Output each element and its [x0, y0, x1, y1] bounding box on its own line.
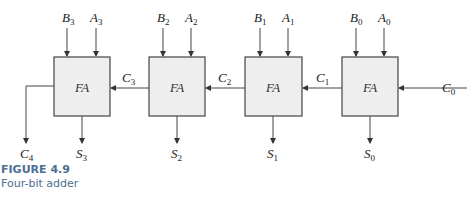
fa-label: FA — [169, 80, 184, 95]
svg-text:A2: A2 — [184, 10, 197, 27]
svg-text:B0: B0 — [350, 10, 363, 27]
svg-text:C4: C4 — [20, 146, 34, 163]
svg-text:A3: A3 — [89, 10, 103, 27]
fa-label: FA — [265, 80, 280, 95]
svg-text:B3: B3 — [62, 10, 75, 27]
svg-text:S1: S1 — [267, 146, 278, 163]
svg-text:B2: B2 — [157, 10, 169, 27]
fa-label: FA — [362, 80, 377, 95]
svg-text:S3: S3 — [76, 146, 88, 163]
svg-text:C3: C3 — [122, 70, 136, 87]
adder-svg: FA FA FA FA B3 A3 B2 A2 B1 A1 B0 A0 C3 C… — [0, 0, 472, 200]
svg-text:B1: B1 — [254, 10, 266, 27]
svg-text:S0: S0 — [364, 146, 376, 163]
svg-text:C1: C1 — [316, 70, 329, 87]
svg-text:A1: A1 — [281, 10, 294, 27]
svg-text:S2: S2 — [171, 146, 182, 163]
svg-text:C0: C0 — [442, 80, 456, 97]
svg-text:A0: A0 — [377, 10, 391, 27]
fa-label: FA — [74, 80, 89, 95]
figure-caption: Four-bit adder — [1, 177, 78, 190]
four-bit-adder-diagram: FA FA FA FA B3 A3 B2 A2 B1 A1 B0 A0 C3 C… — [0, 0, 472, 200]
svg-text:C2: C2 — [218, 70, 231, 87]
figure-label: FIGURE 4.9 — [1, 163, 70, 176]
